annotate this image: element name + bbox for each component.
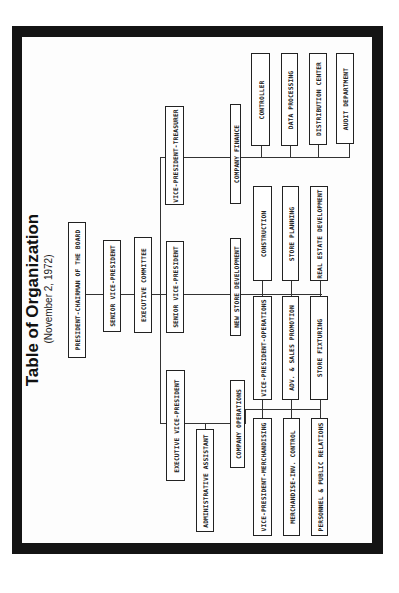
box-store-fixturing: STORE FIXTURING <box>310 296 328 400</box>
box-personnel-public-relations: PERSONNEL & PUBLIC RELATIONS <box>311 418 328 536</box>
connector-line <box>320 400 321 418</box>
box-executive-vp: EXECUTIVE VICE-PRESIDENT <box>166 370 185 481</box>
chart-subtitle: (November 2, 1972) <box>43 255 54 344</box>
box-merchandise-inv-control: MERCHANDISE-INV. CONTROL <box>283 418 300 536</box>
box-new-store-development: NEW STORE DEVELOPMENT <box>230 238 241 336</box>
connector-line <box>349 144 350 157</box>
box-distribution-center: DISTRIBUTION CENTER <box>309 53 327 145</box>
box-administrative-assistant: ADMINISTRATIVE ASSISTANT <box>196 429 214 532</box>
box-construction: CONSTRUCTION <box>253 186 272 281</box>
box-vp-operations: VICE-PRESIDENT-OPERATIONS <box>253 296 272 400</box>
box-senior-vp-2: SENIOR VICE-PRESIDENT <box>166 241 184 333</box>
box-store-planning: STORE PLANNING <box>282 186 299 281</box>
box-vp-merchandising: VICE-PRESIDENT-MERCHANDISING <box>253 418 272 536</box>
box-audit-department: AUDIT DEPARTMENT <box>336 53 354 144</box>
connector-line <box>320 281 321 296</box>
box-company-operations: COMPANY OPERATIONS <box>230 380 245 468</box>
box-senior-vp-1: SENIOR VICE-PRESIDENT <box>103 240 121 332</box>
connector-line <box>86 294 166 295</box>
connector-line <box>245 409 246 424</box>
box-controller: CONTROLLER <box>251 53 270 146</box>
connector-line <box>318 145 319 157</box>
box-president: PRESIDENT-CHAIRMAN OF THE BOARD <box>68 222 86 358</box>
connector-line <box>291 400 292 418</box>
connector-line <box>160 157 161 424</box>
connector-line <box>291 281 292 296</box>
connector-line <box>262 281 263 296</box>
connector-line <box>184 157 350 158</box>
box-data-processing: DATA PROCESSING <box>281 53 298 146</box>
box-real-estate-development: REAL ESTATE DEVELOPMENT <box>310 186 328 281</box>
connector-line <box>184 294 322 295</box>
connector-line <box>245 409 321 410</box>
box-vp-treasurer: VICE-PRESIDENT-TREASURER <box>165 106 184 205</box>
box-executive-committee: EXECUTIVE COMMITTEE <box>134 237 152 333</box>
connector-line <box>261 146 262 157</box>
box-company-finance: COMPANY FINANCE <box>230 104 241 204</box>
connector-line <box>290 146 291 157</box>
chart-title: Table of Organization <box>23 214 43 387</box>
box-adv-sales-promotion: ADV. & SALES PROMOTION <box>282 296 299 400</box>
connector-line <box>262 400 263 418</box>
